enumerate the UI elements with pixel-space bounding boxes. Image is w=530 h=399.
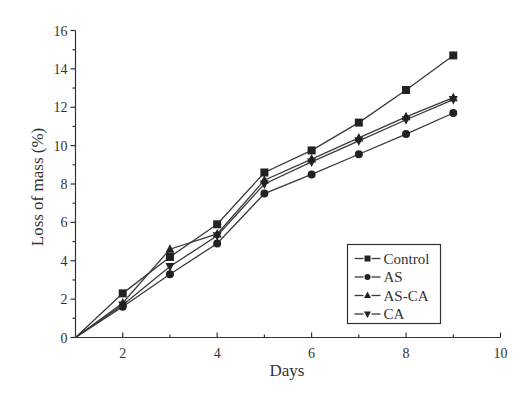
circle-marker-icon	[365, 274, 371, 280]
y-tick-label: 6	[61, 215, 68, 230]
square-marker-icon	[449, 51, 457, 59]
x-tick-label: 2	[119, 346, 126, 361]
square-marker-icon	[166, 253, 174, 261]
y-tick-label: 2	[61, 292, 68, 307]
y-tick-label: 4	[61, 254, 68, 269]
y-tick-label: 8	[61, 177, 68, 192]
x-tick-label: 8	[403, 346, 410, 361]
square-marker-icon	[213, 220, 221, 228]
chart-canvas: 2468100246810121416 ControlASAS-CACA Day…	[0, 0, 530, 399]
legend-label: AS	[384, 269, 403, 285]
y-tick-label: 10	[54, 139, 68, 154]
legend-label: AS-CA	[384, 288, 429, 304]
legend-label: CA	[384, 306, 405, 322]
circle-marker-icon	[308, 170, 316, 178]
legend: ControlASAS-CACA	[348, 245, 441, 324]
x-tick-label: 4	[214, 346, 221, 361]
square-marker-icon	[308, 146, 316, 154]
y-axis-title: Loss of mass (%)	[28, 128, 47, 247]
y-tick-label: 16	[54, 24, 68, 39]
legend-label: Control	[384, 251, 430, 267]
line-chart: 2468100246810121416 ControlASAS-CACA Day…	[0, 0, 530, 399]
circle-marker-icon	[260, 190, 268, 198]
square-marker-icon	[119, 289, 127, 297]
square-marker-icon	[355, 119, 363, 127]
x-tick-label: 6	[308, 346, 315, 361]
x-axis-title: Days	[270, 361, 305, 380]
square-marker-icon	[365, 256, 371, 262]
circle-marker-icon	[355, 150, 363, 158]
circle-marker-icon	[402, 130, 410, 138]
y-tick-label: 0	[61, 331, 68, 346]
square-marker-icon	[402, 86, 410, 94]
triangle-down-marker-icon	[165, 263, 174, 272]
circle-marker-icon	[449, 109, 457, 117]
y-tick-label: 14	[54, 62, 68, 77]
y-tick-label: 12	[54, 100, 68, 115]
x-tick-label: 10	[494, 346, 508, 361]
triangle-down-marker-icon	[307, 158, 316, 167]
